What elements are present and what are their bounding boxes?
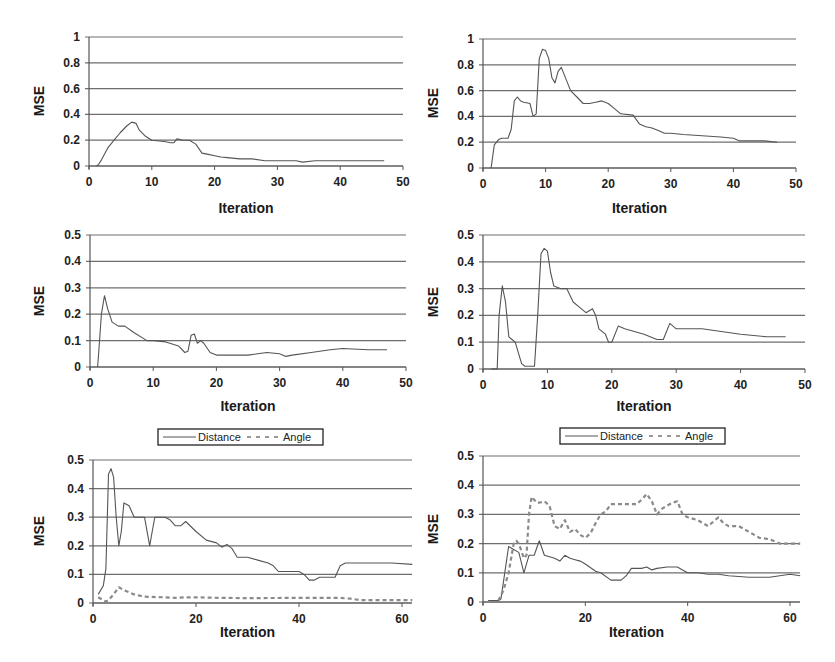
gridlines [479,39,796,168]
y-tick-label: 0.5 [64,228,81,242]
x-tick-label: 20 [189,612,203,626]
series-line-mse [98,296,387,367]
y-tick-label: 0.4 [64,254,81,268]
gridlines [86,235,406,367]
y-tick-label: 0.2 [63,133,80,147]
gridlines [479,235,805,369]
x-tick-label: 20 [210,376,224,390]
y-tick-label: 0.5 [457,449,474,463]
y-tick-label: 0.3 [64,281,81,295]
y-tick-label: 0.4 [63,107,80,121]
x-axis-title: Iteration [612,200,667,216]
y-tick-label: 1 [73,30,80,44]
y-axis-title: MSE [425,88,441,118]
series-line-mse [491,248,785,369]
x-axis-title: Iteration [616,398,671,414]
y-tick-label: 0.2 [64,307,81,321]
y-tick-label: 0 [467,362,474,376]
x-tick-label: 0 [87,376,94,390]
x-axis-title: Iteration [609,624,664,640]
y-tick-label: 0 [467,595,474,609]
series-line-mse [491,49,777,168]
x-tick-label: 50 [789,177,803,191]
x-tick-label: 20 [605,378,619,392]
x-tick-label: 10 [541,378,555,392]
y-tick-label: 0.3 [457,282,474,296]
y-tick-label: 0.8 [63,56,80,70]
x-tick-label: 60 [395,612,409,626]
y-tick-label: 0.1 [457,566,474,580]
y-tick-label: 0.2 [457,135,474,149]
y-tick-label: 0.3 [457,507,474,521]
x-tick-label: 40 [727,177,741,191]
series-line-mse [97,122,385,166]
x-tick-label: 40 [334,175,348,189]
chart-panel-bottom-left: 00.10.20.30.40.50204060IterationMSEDista… [31,429,412,640]
x-tick-label: 30 [670,378,684,392]
legend-label-distance: Distance [600,430,643,442]
y-tick-label: 0.4 [457,478,474,492]
legend-label-angle: Angle [685,430,713,442]
y-tick-label: 0.8 [457,58,474,72]
series-line-distance [488,541,800,601]
y-tick-label: 0 [73,159,80,173]
legend-label-distance: Distance [198,431,241,443]
chart-panel-middle-right: 00.10.20.30.40.501020304050IterationMSE [425,228,812,414]
gridlines [85,37,403,166]
x-tick-label: 0 [480,378,487,392]
y-tick-label: 0.6 [63,82,80,96]
x-axis-title: Iteration [220,624,275,640]
y-tick-label: 0 [467,161,474,175]
y-tick-label: 0.4 [67,482,84,496]
chart-panel-bottom-right: 00.10.20.30.40.50204060IterationMSEDista… [425,428,800,640]
x-tick-label: 50 [798,378,812,392]
y-axis-title: MSE [425,514,441,544]
y-axis-title: MSE [31,86,47,116]
chart-panel-top-right: 00.20.40.60.8101020304050IterationMSE [425,32,803,216]
x-tick-label: 0 [86,175,93,189]
legend-label-angle: Angle [283,431,311,443]
x-tick-label: 40 [734,378,748,392]
y-tick-label: 0.6 [457,84,474,98]
series-line-angle [498,494,800,601]
series-line-angle [98,587,412,601]
x-tick-label: 10 [539,177,553,191]
x-tick-label: 20 [579,611,593,625]
legend: DistanceAngle [560,428,725,444]
y-tick-label: 0.1 [457,335,474,349]
chart-panel-middle-left: 00.10.20.30.40.501020304050IterationMSE [31,228,413,414]
y-tick-label: 0 [77,596,84,610]
y-tick-label: 1 [467,32,474,46]
x-tick-label: 20 [602,177,616,191]
x-tick-label: 40 [336,376,350,390]
y-tick-label: 0.2 [457,308,474,322]
y-tick-label: 0.2 [67,539,84,553]
y-tick-label: 0 [74,360,81,374]
x-tick-label: 40 [292,612,306,626]
gridlines [89,460,412,603]
y-tick-label: 0.1 [67,567,84,581]
y-axis-title: MSE [31,286,47,316]
chart-panel-top-left: 00.20.40.60.8101020304050IterationMSE [31,30,410,216]
y-tick-label: 0.4 [457,255,474,269]
x-tick-label: 10 [147,376,161,390]
x-tick-label: 40 [681,611,695,625]
x-tick-label: 10 [145,175,159,189]
y-tick-label: 0.5 [67,453,84,467]
y-tick-label: 0.1 [64,334,81,348]
series-line-distance [98,469,412,595]
x-tick-label: 0 [480,177,487,191]
x-axis-title: Iteration [218,200,273,216]
x-tick-label: 0 [480,611,487,625]
x-tick-label: 30 [271,175,285,189]
x-axis-title: Iteration [220,398,275,414]
x-tick-label: 50 [399,376,413,390]
y-tick-label: 0.5 [457,228,474,242]
y-tick-label: 0.4 [457,109,474,123]
legend: DistanceAngle [158,429,323,445]
x-tick-label: 30 [273,376,287,390]
y-axis-title: MSE [31,516,47,546]
x-tick-label: 30 [664,177,678,191]
y-axis-title: MSE [425,287,441,317]
y-tick-label: 0.2 [457,537,474,551]
